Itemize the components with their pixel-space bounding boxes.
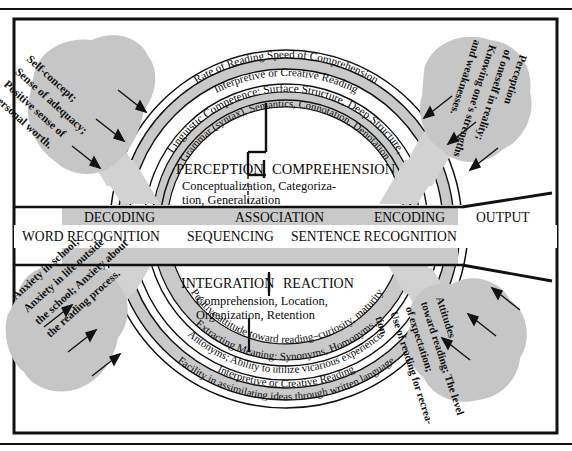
band-sentence-recognition: SENTENCE RECOGNITION xyxy=(291,229,457,244)
core-lower-sub2: Organization, Retention xyxy=(196,308,315,322)
band-association: ASSOCIATION xyxy=(235,210,324,225)
band-encoding: ENCODING xyxy=(374,210,445,225)
band-output: OUTPUT xyxy=(476,210,530,225)
band-sequencing: SEQUENCING xyxy=(187,229,274,244)
core-perception-label: PERCEPTION xyxy=(176,161,264,177)
core-upper-sub1: Conceptualization, Categoriza- xyxy=(182,179,336,193)
figure-canvas: Grammar (syntax), Semantics, Connotation… xyxy=(0,0,572,451)
core-integration-label: INTEGRATION xyxy=(181,276,274,291)
core-lower-sub1: Comprehension, Location, xyxy=(196,294,328,308)
core-upper-sub2: tion, Generalization xyxy=(182,193,280,207)
reading-process-diagram: Grammar (syntax), Semantics, Connotation… xyxy=(0,0,572,451)
band-decoding: DECODING xyxy=(84,210,155,225)
core-comprehension-label: COMPREHENSION xyxy=(272,161,396,177)
core-reaction-label: REACTION xyxy=(283,276,354,291)
